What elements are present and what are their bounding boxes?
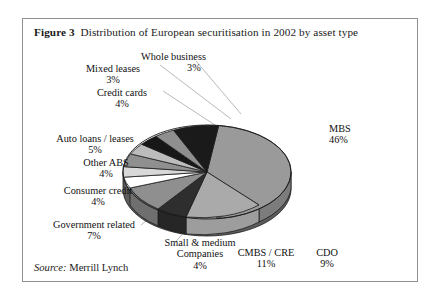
label-cmbs-cre-pct: 11% xyxy=(228,258,304,269)
label-cdo: CDO 9% xyxy=(304,247,350,270)
label-government-related-name: Government related xyxy=(53,219,135,230)
label-cdo-pct: 9% xyxy=(304,258,350,269)
label-credit-cards: Credit cards 4% xyxy=(79,87,165,110)
source-value: Merrill Lynch xyxy=(69,262,128,273)
source-line: Source: Merrill Lynch xyxy=(34,262,128,273)
leader-credit-cards xyxy=(163,91,221,129)
label-mixed-leases: Mixed leases 3% xyxy=(67,63,159,86)
label-consumer-credit: Consumer credit 4% xyxy=(45,185,151,208)
label-credit-cards-pct: 4% xyxy=(79,98,165,109)
label-mbs: MBS 46% xyxy=(329,123,351,146)
label-other-abs: Other ABS 4% xyxy=(67,157,145,180)
figure-box: Figure 3 Distribution of European securi… xyxy=(22,18,418,282)
label-cdo-name: CDO xyxy=(316,247,338,258)
label-consumer-credit-name: Consumer credit xyxy=(64,185,132,196)
label-other-abs-name: Other ABS xyxy=(83,157,128,168)
label-auto-loans-pct: 5% xyxy=(41,144,149,155)
source-label: Source: xyxy=(34,262,67,273)
label-auto-loans-name: Auto loans / leases xyxy=(56,133,134,144)
label-mbs-name: MBS xyxy=(329,123,351,134)
label-government-related: Government related 7% xyxy=(33,219,155,242)
label-cmbs-cre-name: CMBS / CRE xyxy=(238,247,295,258)
label-auto-loans: Auto loans / leases 5% xyxy=(41,133,149,156)
label-mbs-pct: 46% xyxy=(329,134,351,145)
label-whole-business-pct: 3% xyxy=(187,62,206,73)
label-mixed-leases-pct: 3% xyxy=(67,74,159,85)
label-credit-cards-name: Credit cards xyxy=(97,87,147,98)
label-mixed-leases-name: Mixed leases xyxy=(86,63,140,74)
label-cmbs-cre: CMBS / CRE 11% xyxy=(228,247,304,270)
label-other-abs-pct: 4% xyxy=(67,168,145,179)
label-small-medium-name-line1: Small & medium xyxy=(165,237,236,248)
pie-chart: Whole business 3% Mixed leases 3% Credit… xyxy=(23,19,419,283)
label-consumer-credit-pct: 4% xyxy=(45,196,151,207)
label-whole-business-name: Whole business xyxy=(141,51,206,62)
label-government-related-pct: 7% xyxy=(33,230,155,241)
